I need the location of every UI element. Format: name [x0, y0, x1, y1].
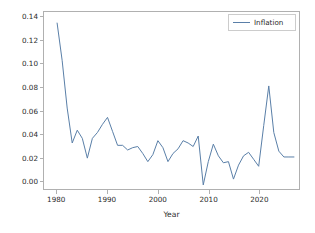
x-tick-label: 2010: [199, 195, 217, 204]
legend-item-label: Inflation: [254, 18, 283, 27]
inflation-series-line: [57, 23, 294, 185]
y-tick-label: 0.14: [22, 12, 38, 21]
x-tick-mark: [259, 190, 260, 194]
plot-svg: [44, 12, 299, 189]
y-tick-label: 0.00: [22, 177, 38, 186]
x-tick-mark: [107, 190, 108, 194]
y-tick-label: 0.12: [22, 35, 38, 44]
x-tick-mark: [158, 190, 159, 194]
x-tick-label: 1990: [98, 195, 116, 204]
y-tick-label: 0.08: [22, 82, 38, 91]
y-tick-label: 0.02: [22, 153, 38, 162]
chart-legend: Inflation: [228, 14, 296, 31]
inflation-line-chart-figure: 0.000.020.040.060.080.100.120.14 1980199…: [0, 0, 315, 233]
x-tick-label: 1980: [47, 195, 65, 204]
x-tick-mark: [209, 190, 210, 194]
y-tick-label: 0.04: [22, 130, 38, 139]
legend-line-swatch: [233, 22, 250, 23]
y-tick-label: 0.06: [22, 106, 38, 115]
x-tick-label: 2020: [250, 195, 268, 204]
y-tick-label: 0.10: [22, 59, 38, 68]
x-tick-mark: [56, 190, 57, 194]
x-tick-label: 2000: [149, 195, 167, 204]
x-axis-label: Year: [43, 210, 300, 219]
plot-axes-area: [43, 11, 300, 190]
